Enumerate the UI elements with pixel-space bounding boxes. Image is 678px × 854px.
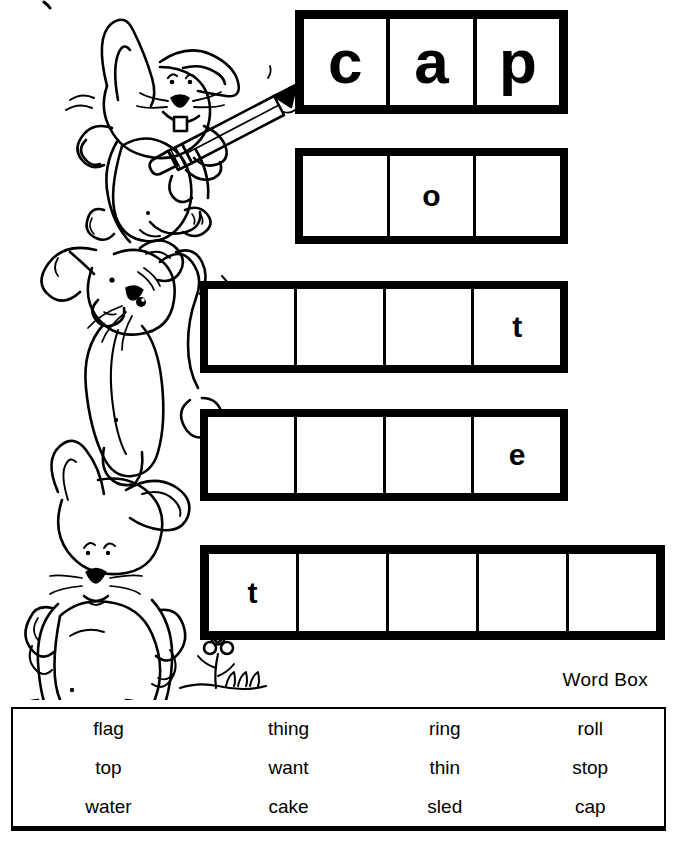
puzzle-row-1[interactable]: c a p [295,10,568,114]
puzzle-row-5[interactable]: t [200,545,665,640]
puzzle-cell[interactable] [383,417,472,493]
puzzle-cell[interactable]: o [387,156,474,236]
puzzle-cell[interactable] [294,289,383,365]
puzzle-cell[interactable]: c [304,19,386,105]
puzzle-cell[interactable] [303,156,387,236]
word-box-row: top want thin stop [13,748,664,787]
word-box-word[interactable]: want [204,748,373,787]
puzzle-row-2[interactable]: o [295,148,568,244]
puzzle-cell[interactable] [476,554,566,631]
word-box-word[interactable]: stop [516,748,664,787]
word-box-word[interactable]: ring [373,709,516,748]
word-box-word[interactable]: cap [516,787,664,826]
word-box-word[interactable]: thing [204,709,373,748]
puzzle-cell[interactable]: a [386,19,472,105]
word-box-row: flag thing ring roll [13,709,664,748]
word-box-table: flag thing ring roll top want thin stop … [13,709,664,826]
puzzle-cell[interactable] [566,554,656,631]
puzzle-cell[interactable] [208,289,294,365]
puzzle-row-4[interactable]: e [200,409,568,501]
word-box-word[interactable]: cake [204,787,373,826]
puzzle-cell[interactable]: p [473,19,559,105]
puzzle-row-3[interactable]: t [200,281,568,373]
puzzle-cell[interactable] [296,554,386,631]
word-box-row: water cake sled cap [13,787,664,826]
puzzle-cell[interactable] [383,289,472,365]
puzzle-cell[interactable] [294,417,383,493]
word-box-label: Word Box [0,669,648,691]
puzzle-cell[interactable] [473,156,560,236]
word-box: flag thing ring roll top want thin stop … [11,707,666,831]
word-box-word[interactable]: thin [373,748,516,787]
word-box-word[interactable]: sled [373,787,516,826]
word-box-word[interactable]: flag [13,709,204,748]
puzzle-cell[interactable] [208,417,294,493]
word-box-word[interactable]: top [13,748,204,787]
worksheet-page: c a p o t e t Word Box flag thing ring [0,0,678,854]
puzzle-cell[interactable]: e [471,417,560,493]
puzzle-cell[interactable]: t [471,289,560,365]
puzzle-cell[interactable]: t [209,554,296,631]
word-box-word[interactable]: roll [516,709,664,748]
puzzle-cell[interactable] [386,554,476,631]
word-box-word[interactable]: water [13,787,204,826]
